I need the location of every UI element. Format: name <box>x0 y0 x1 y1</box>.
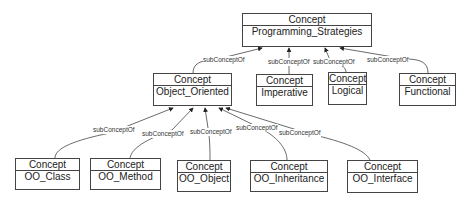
node-type: Concept <box>251 161 327 173</box>
node-type: Concept <box>243 14 371 26</box>
node-type: Concept <box>178 161 230 173</box>
node-oo-method[interactable]: Concept OO_Method <box>90 158 161 190</box>
node-oo-inheritance[interactable]: Concept OO_Inheritance <box>250 160 328 192</box>
edge-label: subConceptOf <box>236 124 278 132</box>
node-type: Concept <box>154 74 231 86</box>
node-name: OO_Method <box>91 171 160 183</box>
edge-label: subConceptOf <box>279 129 321 137</box>
node-name: OO_Object <box>178 173 230 185</box>
node-name: Programming_Strategies <box>243 26 371 38</box>
node-name: Logical <box>329 85 366 97</box>
node-oo-class[interactable]: Concept OO_Class <box>15 158 80 190</box>
edge-label: subConceptOf <box>142 130 184 138</box>
node-oo-interface[interactable]: Concept OO_Interface <box>347 160 418 193</box>
node-name: OO_Inheritance <box>251 173 327 185</box>
edge-label: subConceptOf <box>268 58 310 66</box>
node-type: Concept <box>16 159 79 171</box>
edge-label: subConceptOf <box>203 56 245 64</box>
edge-label: subConceptOf <box>367 56 409 64</box>
node-type: Concept <box>329 73 366 85</box>
node-oo-object[interactable]: Concept OO_Object <box>177 160 231 192</box>
edge-label: subConceptOf <box>93 126 135 134</box>
node-type: Concept <box>91 159 160 171</box>
node-imperative[interactable]: Concept Imperative <box>256 74 313 106</box>
edge-label: subConceptOf <box>190 128 232 136</box>
node-type: Concept <box>348 161 417 173</box>
edge-label: subConceptOf <box>313 58 355 66</box>
node-programming-strategies[interactable]: Concept Programming_Strategies <box>242 13 372 47</box>
node-type: Concept <box>400 74 455 86</box>
node-name: OO_Interface <box>348 173 417 185</box>
node-name: Functional <box>400 86 455 98</box>
node-object-oriented[interactable]: Concept Object_Oriented <box>153 73 232 106</box>
node-functional[interactable]: Concept Functional <box>399 73 456 106</box>
node-name: Object_Oriented <box>154 86 231 98</box>
node-type: Concept <box>257 75 312 87</box>
node-logical[interactable]: Concept Logical <box>328 72 367 105</box>
node-name: OO_Class <box>16 171 79 183</box>
node-name: Imperative <box>257 87 312 99</box>
